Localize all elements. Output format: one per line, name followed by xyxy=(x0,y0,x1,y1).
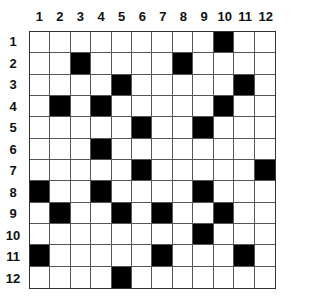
empty-cell[interactable] xyxy=(214,267,234,288)
empty-cell[interactable] xyxy=(255,181,275,202)
empty-cell[interactable] xyxy=(71,203,91,224)
empty-cell[interactable] xyxy=(50,75,70,96)
empty-cell[interactable] xyxy=(50,181,70,202)
empty-cell[interactable] xyxy=(173,75,193,96)
empty-cell[interactable] xyxy=(91,224,111,245)
empty-cell[interactable] xyxy=(50,245,70,266)
empty-cell[interactable] xyxy=(30,160,50,181)
empty-cell[interactable] xyxy=(30,117,50,138)
empty-cell[interactable] xyxy=(30,53,50,74)
empty-cell[interactable] xyxy=(30,139,50,160)
empty-cell[interactable] xyxy=(234,139,254,160)
empty-cell[interactable] xyxy=(30,96,50,117)
empty-cell[interactable] xyxy=(30,224,50,245)
empty-cell[interactable] xyxy=(214,139,234,160)
empty-cell[interactable] xyxy=(132,203,152,224)
empty-cell[interactable] xyxy=(193,160,213,181)
empty-cell[interactable] xyxy=(30,267,50,288)
empty-cell[interactable] xyxy=(50,139,70,160)
empty-cell[interactable] xyxy=(91,203,111,224)
empty-cell[interactable] xyxy=(71,267,91,288)
empty-cell[interactable] xyxy=(234,224,254,245)
empty-cell[interactable] xyxy=(234,117,254,138)
empty-cell[interactable] xyxy=(132,224,152,245)
empty-cell[interactable] xyxy=(71,181,91,202)
empty-cell[interactable] xyxy=(234,32,254,53)
empty-cell[interactable] xyxy=(255,203,275,224)
empty-cell[interactable] xyxy=(234,160,254,181)
empty-cell[interactable] xyxy=(91,267,111,288)
empty-cell[interactable] xyxy=(173,139,193,160)
empty-cell[interactable] xyxy=(112,245,132,266)
empty-cell[interactable] xyxy=(173,96,193,117)
empty-cell[interactable] xyxy=(71,117,91,138)
empty-cell[interactable] xyxy=(152,224,172,245)
empty-cell[interactable] xyxy=(152,139,172,160)
empty-cell[interactable] xyxy=(152,96,172,117)
empty-cell[interactable] xyxy=(112,160,132,181)
empty-cell[interactable] xyxy=(132,96,152,117)
empty-cell[interactable] xyxy=(132,181,152,202)
empty-cell[interactable] xyxy=(132,53,152,74)
empty-cell[interactable] xyxy=(255,117,275,138)
empty-cell[interactable] xyxy=(71,160,91,181)
empty-cell[interactable] xyxy=(214,53,234,74)
empty-cell[interactable] xyxy=(112,96,132,117)
empty-cell[interactable] xyxy=(91,117,111,138)
empty-cell[interactable] xyxy=(132,267,152,288)
empty-cell[interactable] xyxy=(173,160,193,181)
empty-cell[interactable] xyxy=(91,53,111,74)
empty-cell[interactable] xyxy=(112,53,132,74)
empty-cell[interactable] xyxy=(112,117,132,138)
empty-cell[interactable] xyxy=(152,53,172,74)
empty-cell[interactable] xyxy=(91,75,111,96)
empty-cell[interactable] xyxy=(152,32,172,53)
empty-cell[interactable] xyxy=(193,203,213,224)
empty-cell[interactable] xyxy=(255,139,275,160)
empty-cell[interactable] xyxy=(152,181,172,202)
empty-cell[interactable] xyxy=(132,245,152,266)
empty-cell[interactable] xyxy=(255,96,275,117)
empty-cell[interactable] xyxy=(173,267,193,288)
empty-cell[interactable] xyxy=(132,32,152,53)
empty-cell[interactable] xyxy=(234,53,254,74)
empty-cell[interactable] xyxy=(152,117,172,138)
empty-cell[interactable] xyxy=(234,181,254,202)
empty-cell[interactable] xyxy=(193,267,213,288)
empty-cell[interactable] xyxy=(30,75,50,96)
empty-cell[interactable] xyxy=(112,32,132,53)
empty-cell[interactable] xyxy=(50,160,70,181)
empty-cell[interactable] xyxy=(193,32,213,53)
empty-cell[interactable] xyxy=(50,224,70,245)
empty-cell[interactable] xyxy=(214,117,234,138)
empty-cell[interactable] xyxy=(112,181,132,202)
empty-cell[interactable] xyxy=(112,139,132,160)
empty-cell[interactable] xyxy=(173,203,193,224)
empty-cell[interactable] xyxy=(214,75,234,96)
empty-cell[interactable] xyxy=(214,160,234,181)
empty-cell[interactable] xyxy=(152,160,172,181)
empty-cell[interactable] xyxy=(234,96,254,117)
empty-cell[interactable] xyxy=(173,117,193,138)
empty-cell[interactable] xyxy=(193,139,213,160)
empty-cell[interactable] xyxy=(71,75,91,96)
empty-cell[interactable] xyxy=(173,224,193,245)
empty-cell[interactable] xyxy=(193,96,213,117)
empty-cell[interactable] xyxy=(193,75,213,96)
empty-cell[interactable] xyxy=(255,32,275,53)
empty-cell[interactable] xyxy=(255,53,275,74)
empty-cell[interactable] xyxy=(71,245,91,266)
empty-cell[interactable] xyxy=(71,32,91,53)
empty-cell[interactable] xyxy=(71,96,91,117)
empty-cell[interactable] xyxy=(91,32,111,53)
empty-cell[interactable] xyxy=(173,32,193,53)
empty-cell[interactable] xyxy=(30,32,50,53)
empty-cell[interactable] xyxy=(255,267,275,288)
empty-cell[interactable] xyxy=(112,224,132,245)
empty-cell[interactable] xyxy=(152,75,172,96)
empty-cell[interactable] xyxy=(132,75,152,96)
empty-cell[interactable] xyxy=(50,53,70,74)
empty-cell[interactable] xyxy=(255,75,275,96)
empty-cell[interactable] xyxy=(193,245,213,266)
empty-cell[interactable] xyxy=(255,245,275,266)
